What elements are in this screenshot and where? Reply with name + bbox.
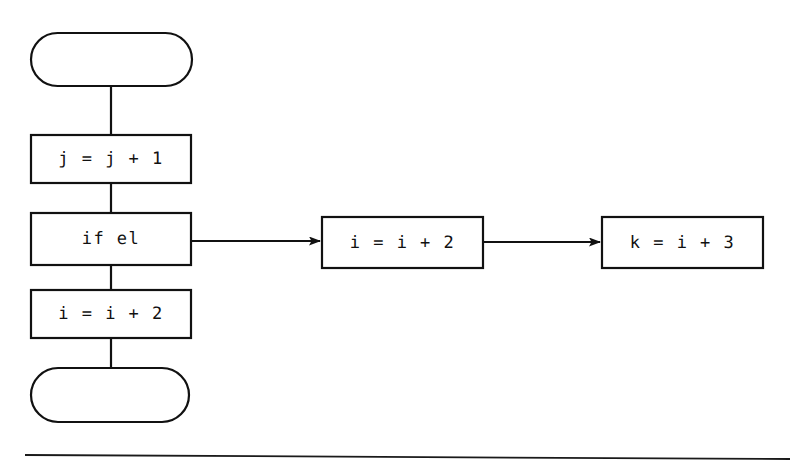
node-end [31,368,189,422]
node-assign-i [31,290,191,338]
flowchart-canvas [0,0,801,468]
node-assign-j [31,135,191,183]
flowchart-figure: j = j + 1 if el i = i + 2 i = i + 2 k = … [0,0,801,468]
node-start [31,33,192,86]
node-if-el [31,213,191,265]
node-assign-k [602,217,763,268]
footer-rule [25,455,790,459]
node-assign-i2 [322,217,483,268]
